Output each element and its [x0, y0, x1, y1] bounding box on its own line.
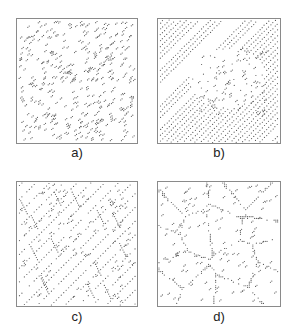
panel-b-plot — [158, 19, 280, 143]
panel-c — [16, 181, 138, 307]
panel-c-label: c) — [47, 310, 107, 324]
panel-c-plot — [17, 182, 137, 306]
panel-d-plot — [158, 182, 280, 306]
panel-d — [157, 181, 281, 307]
panel-b — [157, 18, 281, 144]
panel-b-label: b) — [189, 146, 249, 160]
panel-d-label: d) — [189, 310, 249, 324]
panel-a — [16, 18, 138, 144]
panel-a-label: a) — [47, 146, 107, 160]
panel-a-plot — [17, 19, 137, 143]
